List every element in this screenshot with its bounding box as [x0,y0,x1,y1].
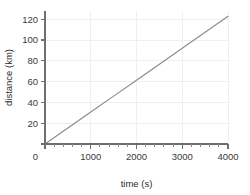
y-tick-label-100: 100 [22,34,38,45]
chart-container: 120 100 80 60 40 20 0 1000 2000 3000 400… [0,0,250,195]
y-axis-major-ticks [41,19,45,144]
x-axis-title: time (s) [121,178,153,189]
x-axis-tick-labels: 1000 2000 3000 4000 [80,151,238,162]
y-axis-title: distance (km) [3,49,14,106]
y-tick-label-20: 20 [27,118,38,129]
y-tick-label-80: 80 [27,55,38,66]
x-tick-label-2000: 2000 [126,151,147,162]
y-tick-label-60: 60 [27,76,38,87]
y-axis-tick-labels: 120 100 80 60 40 20 0 [22,14,38,162]
line-chart: 120 100 80 60 40 20 0 1000 2000 3000 400… [0,0,250,195]
x-tick-label-3000: 3000 [172,151,193,162]
y-tick-label-120: 120 [22,14,38,25]
y-tick-label-0: 0 [33,151,38,162]
y-tick-label-40: 40 [27,97,38,108]
x-tick-label-4000: 4000 [217,151,238,162]
x-tick-label-1000: 1000 [80,151,101,162]
gridlines [45,11,228,144]
